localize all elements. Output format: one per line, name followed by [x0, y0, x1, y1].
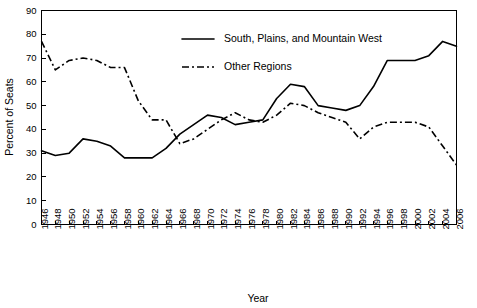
- y-tick-label: 70: [26, 52, 37, 63]
- y-tick-label: 60: [26, 76, 37, 87]
- x-tick-label: 1972: [218, 208, 229, 229]
- x-tick-label: 1986: [315, 208, 326, 229]
- legend-label-1: South, Plains, and Mountain West: [224, 32, 382, 44]
- y-tick-label: 30: [26, 147, 37, 158]
- legend-label-2: Other Regions: [224, 60, 292, 72]
- x-tick-label: 1964: [163, 208, 174, 229]
- x-tick-label: 1968: [191, 208, 202, 229]
- x-tick-label: 1946: [39, 208, 50, 229]
- x-tick-label: 1980: [274, 208, 285, 229]
- x-tick-label: 2006: [454, 208, 465, 229]
- y-axis-ticks: 0102030405060708090: [26, 5, 46, 230]
- x-tick-label: 2004: [440, 208, 451, 229]
- x-axis-title: Year: [247, 292, 269, 304]
- x-axis-ticks: 1946194819501952195419561958196019621964…: [39, 208, 465, 229]
- x-tick-label: 1996: [384, 208, 395, 229]
- x-tick-label: 1948: [52, 208, 63, 229]
- x-tick-label: 1992: [357, 208, 368, 229]
- x-tick-label: 2002: [426, 208, 437, 229]
- y-tick-label: 50: [26, 100, 37, 111]
- x-tick-label: 1994: [371, 208, 382, 229]
- x-tick-label: 1952: [80, 208, 91, 229]
- x-tick-label: 2000: [412, 208, 423, 229]
- y-tick-label: 80: [26, 28, 37, 39]
- line-chart: 0102030405060708090 19461948195019521954…: [0, 0, 477, 308]
- x-tick-label: 1950: [66, 208, 77, 229]
- x-tick-label: 1982: [288, 208, 299, 229]
- x-tick-label: 1956: [108, 208, 119, 229]
- x-tick-label: 1974: [232, 208, 243, 229]
- x-tick-label: 1988: [329, 208, 340, 229]
- x-tick-label: 1970: [205, 208, 216, 229]
- chart-figure: 0102030405060708090 19461948195019521954…: [0, 0, 477, 308]
- x-tick-label: 1990: [343, 208, 354, 229]
- y-tick-label: 0: [31, 219, 36, 230]
- x-tick-label: 1998: [398, 208, 409, 229]
- chart-legend: South, Plains, and Mountain WestOther Re…: [182, 32, 382, 72]
- x-tick-label: 1954: [94, 208, 105, 229]
- x-tick-label: 1978: [260, 208, 271, 229]
- x-tick-label: 1962: [149, 208, 160, 229]
- y-tick-label: 20: [26, 171, 37, 182]
- x-tick-label: 1984: [301, 208, 312, 229]
- y-tick-label: 90: [26, 5, 37, 16]
- x-tick-label: 1976: [246, 208, 257, 229]
- y-axis-title: Percent of Seats: [3, 78, 15, 156]
- y-tick-label: 40: [26, 123, 37, 134]
- y-tick-label: 10: [26, 195, 37, 206]
- x-tick-label: 1966: [177, 208, 188, 229]
- x-tick-label: 1958: [122, 208, 133, 229]
- x-tick-label: 1960: [135, 208, 146, 229]
- series-line-1: [42, 41, 457, 158]
